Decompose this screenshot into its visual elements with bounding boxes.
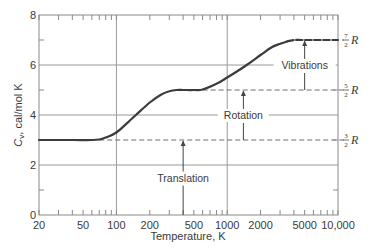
r-symbol: R <box>350 83 359 97</box>
fraction-numerator: 7 <box>344 32 348 40</box>
gridlines <box>39 15 338 215</box>
x-tick-label: 5000 <box>292 219 316 231</box>
x-tick-label: 100 <box>107 219 125 231</box>
arrowhead-icon <box>241 91 246 97</box>
y-tick-label: 4 <box>30 109 36 121</box>
y-axis-title: Cv, cal/mol K <box>12 83 26 147</box>
annotation-label: Rotation <box>224 109 263 121</box>
y-tick-labels: 02468 <box>30 9 36 221</box>
y-tick-label: 6 <box>30 59 36 71</box>
x-tick-label: 2000 <box>248 219 272 231</box>
y-tick-label: 0 <box>30 209 36 221</box>
r-fraction-labels: 32R52R72R <box>343 32 359 149</box>
arrowhead-icon <box>181 141 186 147</box>
x-tick-label: 10,000 <box>321 219 355 231</box>
reference-lines <box>99 40 344 140</box>
y-tick-label: 2 <box>30 159 36 171</box>
x-axis-title: Temperature, K <box>150 230 226 242</box>
fraction-numerator: 3 <box>344 132 348 140</box>
fraction-denominator: 2 <box>344 141 348 149</box>
heat-capacity-chart: TranslationRotationVibrations 2050100200… <box>0 0 371 249</box>
arrowhead-icon <box>302 41 307 47</box>
fraction-numerator: 5 <box>344 82 348 90</box>
cv-curve-solid <box>39 41 288 140</box>
r-symbol: R <box>350 133 359 147</box>
r-symbol: R <box>350 33 359 47</box>
fraction-denominator: 2 <box>344 41 348 49</box>
annotation-label: Vibrations <box>281 59 328 71</box>
x-tick-label: 50 <box>77 219 89 231</box>
y-tick-label: 8 <box>30 9 36 21</box>
annotation-label: Translation <box>157 172 209 184</box>
fraction-denominator: 2 <box>344 91 348 99</box>
